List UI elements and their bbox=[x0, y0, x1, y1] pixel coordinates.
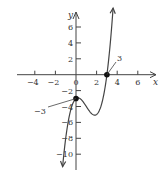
y-tick-label: 2 bbox=[68, 55, 73, 64]
ticks: −4−20246642−2−4−6−8−10 bbox=[27, 23, 140, 159]
y-tick-label: −8 bbox=[61, 134, 73, 143]
point-label: 3 bbox=[117, 54, 122, 63]
y-axis-label: y bbox=[67, 10, 74, 20]
y-tick-label: 4 bbox=[68, 39, 73, 48]
axes: xy bbox=[17, 10, 158, 170]
intercept-point bbox=[104, 72, 110, 78]
point-label: −3 bbox=[34, 107, 46, 116]
function-graph: xy −4−20246642−2−4−6−8−10 −33 bbox=[0, 0, 167, 179]
y-tick-label: −2 bbox=[61, 87, 73, 96]
x-tick-label: 4 bbox=[115, 78, 120, 87]
x-tick-label: 6 bbox=[135, 78, 140, 87]
x-axis-label: x bbox=[153, 77, 158, 87]
x-tick-label: 0 bbox=[73, 78, 78, 87]
x-tick-label: −4 bbox=[27, 78, 39, 87]
x-tick-label: 2 bbox=[94, 78, 99, 87]
x-tick-label: −2 bbox=[48, 78, 60, 87]
y-tick-label: 6 bbox=[68, 23, 73, 32]
